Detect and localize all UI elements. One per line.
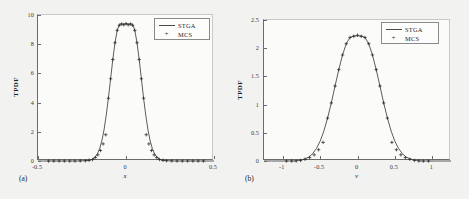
x-tick-label: 1 [430,163,433,170]
y-tick [264,48,267,49]
legend-label: MCS [178,31,192,38]
legend-entry-mcs: + MCS [158,30,205,39]
x-tick [432,156,433,159]
x-tick [395,156,396,159]
panel-sublabel: (a) [19,174,27,183]
y-tick [38,44,41,45]
y-tick-label: 0 [240,157,259,164]
y-tick [264,133,267,134]
x-axis-title: v [355,172,358,180]
x-tick [214,156,215,159]
legend-entry-mcs: + MCS [385,34,434,43]
figure: 10 8 6 4 2 0 -0.5 0 0.5 TPDF x (a) STGA … [0,0,469,199]
y-tick [38,73,41,74]
legend-label: STGA [178,22,196,29]
legend-entry-stga: STGA [158,21,205,30]
x-tick [283,156,284,159]
panel-sublabel: (b) [245,174,254,183]
legend-a: STGA + MCS [154,18,210,40]
plus-marker-icon: + [385,34,402,43]
y-tick-label: 10 [20,11,34,18]
x-tick-label: 0.5 [390,163,398,170]
y-tick-label: 2.5 [240,16,259,23]
x-tick [126,156,127,159]
y-tick [38,103,41,104]
legend-b: STGA + MCS [381,22,439,44]
y-tick-label: 6 [20,69,34,76]
y-tick [38,15,41,16]
y-axis-title: TPDF [236,70,244,110]
y-tick-label: 0.5 [240,128,259,135]
panel-a: 10 8 6 4 2 0 -0.5 0 0.5 TPDF x (a) STGA … [0,0,234,199]
legend-label: STGA [405,26,423,33]
y-tick-label: 2 [240,44,259,51]
x-tick-label: 0 [355,163,358,170]
y-tick [264,20,267,21]
x-tick-label: -0.5 [314,163,324,170]
panel-b: 2.5 2 1.5 1 0.5 0 -1 -0.5 0 0.5 1 TPDF v… [234,0,469,199]
y-tick [264,161,267,162]
y-tick-label: 4 [20,98,34,105]
line-swatch-icon [385,25,402,34]
x-tick [320,156,321,159]
plus-marker-icon: + [158,30,175,39]
x-axis-title: x [123,172,126,180]
y-tick-label: 2 [20,127,34,134]
y-tick [38,132,41,133]
x-tick-label: 0.5 [209,163,217,170]
line-swatch-icon [158,21,175,30]
y-tick [264,105,267,106]
y-tick [264,76,267,77]
x-tick [38,156,39,159]
y-tick-label: 8 [20,40,34,47]
legend-entry-stga: STGA [385,25,434,34]
legend-label: MCS [405,35,419,42]
x-tick-label: -0.5 [32,163,42,170]
y-tick [38,161,41,162]
x-tick-label: -1 [279,163,284,170]
x-tick [358,156,359,159]
x-tick-label: 0 [123,163,126,170]
y-axis-title: TPDF [12,67,20,107]
